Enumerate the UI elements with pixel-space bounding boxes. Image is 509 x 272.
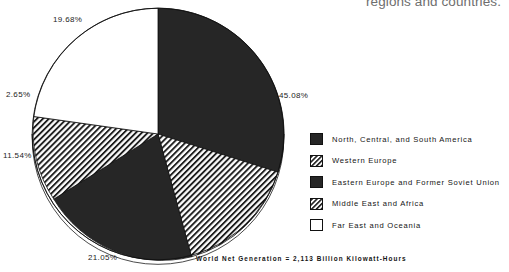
legend-label-middle-east-and-africa: Middle East and Africa: [332, 199, 424, 208]
pie-slice-far-east-and-oceania[interactable]: [34, 8, 158, 134]
pie-value-label-far-east-and-oceania: 19.68%: [53, 15, 82, 24]
pie-value-label-middle-east-and-africa: 2.65%: [6, 90, 30, 99]
legend-label-eastern-europe-former-soviet-union: Eastern Europe and Former Soviet Union: [332, 178, 500, 187]
legend-item-western-europe[interactable]: Western Europe: [310, 153, 506, 169]
chart-caption: World Net Generation = 2,113 Billion Kil…: [196, 255, 407, 262]
legend-item-middle-east-and-africa[interactable]: Middle East and Africa: [310, 196, 506, 212]
legend-swatch-diagonal-hatch-icon: [310, 155, 323, 167]
pie-value-label-western-europe: 21.05%: [88, 253, 117, 262]
pie-value-label-eastern-europe-former-soviet-union: 11.54%: [3, 151, 32, 160]
legend-label-western-europe: Western Europe: [332, 156, 397, 165]
legend-swatch-solid-dark-icon: [310, 176, 323, 188]
legend-swatch-white-icon: [310, 219, 323, 231]
legend-item-eastern-europe-former-soviet-union[interactable]: Eastern Europe and Former Soviet Union: [310, 174, 506, 190]
legend-item-north-central-south-america[interactable]: North, Central, and South America: [310, 131, 506, 147]
legend-swatch-solid-dark-icon: [310, 133, 323, 145]
pie-value-label-north-central-south-america: 45.08%: [279, 91, 308, 100]
chart-legend: North, Central, and South America Wester…: [310, 131, 506, 239]
legend-label-north-central-south-america: North, Central, and South America: [332, 135, 472, 144]
legend-item-far-east-and-oceania[interactable]: Far East and Oceania: [310, 217, 506, 233]
legend-swatch-diagonal-hatch-icon: [310, 198, 323, 210]
legend-label-far-east-and-oceania: Far East and Oceania: [332, 221, 421, 230]
